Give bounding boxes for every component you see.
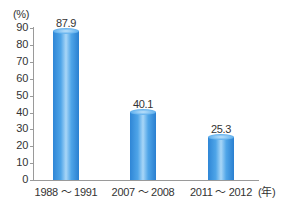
y-tick-mark — [30, 180, 33, 181]
y-tick-mark — [30, 163, 33, 164]
bar-2011-2012 — [208, 137, 234, 180]
x-axis-unit-label: (年) — [258, 183, 275, 199]
y-tick-mark — [30, 129, 33, 130]
y-tick-label: 90 — [4, 21, 28, 33]
x-axis-line — [33, 180, 259, 181]
y-tick-label: 0 — [4, 173, 28, 185]
y-axis-line — [33, 27, 34, 181]
y-tick-label: 20 — [4, 139, 28, 151]
y-tick-mark — [30, 62, 33, 63]
bar-cap — [208, 134, 234, 140]
bar-1988-1991 — [53, 31, 79, 180]
y-tick-mark — [30, 96, 33, 97]
y-tick-label: 30 — [4, 122, 28, 134]
bar-chart: (%) 90 80 70 60 50 40 30 20 10 0 87.9 40… — [0, 0, 282, 204]
y-tick-mark — [30, 45, 33, 46]
bar-cap — [53, 28, 79, 34]
bar-cap — [130, 109, 156, 115]
y-tick-label: 80 — [4, 38, 28, 50]
x-category-label: 1988 ～ 1991 — [26, 183, 106, 199]
x-category-label: 2011 ～ 2012 — [181, 183, 261, 199]
y-tick-mark — [30, 146, 33, 147]
y-tick-mark — [30, 28, 33, 29]
y-tick-label: 70 — [4, 55, 28, 67]
y-tick-mark — [30, 79, 33, 80]
y-axis-unit-label: (%) — [13, 8, 29, 20]
y-tick-label: 60 — [4, 72, 28, 84]
y-tick-label: 10 — [4, 156, 28, 168]
bar-2007-2008 — [130, 112, 156, 180]
x-category-label: 2007 ～ 2008 — [103, 183, 183, 199]
y-tick-label: 40 — [4, 106, 28, 118]
y-tick-mark — [30, 113, 33, 114]
y-tick-label: 50 — [4, 89, 28, 101]
